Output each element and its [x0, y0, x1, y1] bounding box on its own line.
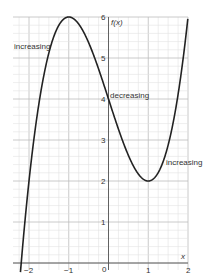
x-tick-label: −2 [24, 266, 34, 275]
y-tick-label: 4 [101, 95, 106, 104]
annotation-increasing-left: increasing [14, 42, 50, 51]
origin-label: 0 [102, 265, 107, 274]
x-tick-label: 2 [186, 266, 191, 275]
annotation-increasing-right: increasing [166, 158, 202, 167]
y-tick-label: 6 [101, 13, 106, 22]
x-tick-label: −1 [64, 266, 74, 275]
x-axis-label: x [180, 252, 186, 261]
annotation-decreasing: decreasing [110, 91, 149, 100]
y-tick-label: 1 [101, 218, 106, 227]
x-tick-label: 1 [146, 266, 151, 275]
y-axis-label: f(x) [111, 18, 123, 27]
y-tick-label: 5 [101, 54, 106, 63]
y-tick-label: 2 [101, 177, 106, 186]
y-tick-label: 3 [101, 136, 106, 145]
function-graph: f(x) x 0 −2 −1 1 2 1 2 3 4 5 6 increasin… [0, 0, 213, 276]
